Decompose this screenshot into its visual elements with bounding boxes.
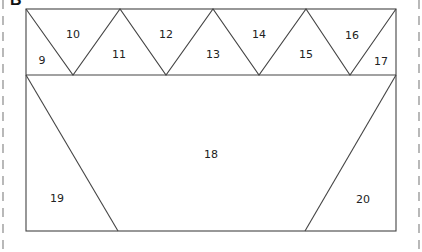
piece-label-17: 17 [374,55,388,68]
outer-block-border [26,9,396,231]
piece-label-14: 14 [252,28,266,41]
right-trapezoid-slope [305,75,396,231]
piece-label-10: 10 [66,28,80,41]
piece-label-19: 19 [50,192,64,205]
piece-label-20: 20 [356,193,370,206]
piece-label-12: 12 [159,28,173,41]
panel-letter: B [10,0,22,8]
left-trapezoid-slope [26,75,118,231]
piece-label-13: 13 [206,48,220,61]
piece-label-9: 9 [39,54,46,67]
zigzag-triangle-lines [26,9,396,75]
piece-label-18: 18 [204,148,218,161]
piece-label-15: 15 [299,48,313,61]
piece-label-11: 11 [112,48,126,61]
piece-label-16: 16 [345,29,359,42]
quilt-pattern-diagram: B 9 10 11 12 13 14 15 16 17 18 19 20 [0,0,422,252]
